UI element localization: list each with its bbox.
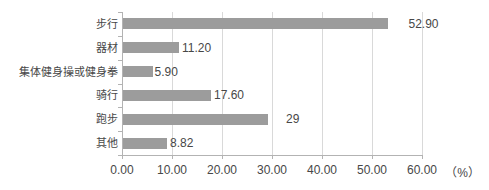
- x-tick-label: 10.00: [150, 163, 194, 177]
- category-tick-mark: [118, 60, 122, 61]
- x-tick-mark: [422, 156, 423, 159]
- x-tick-label: 50.00: [350, 163, 394, 177]
- x-tick-mark: [222, 156, 223, 159]
- category-tick-mark: [118, 155, 122, 156]
- plot-area: 52.9011.205.9017.60298.82: [122, 12, 423, 156]
- gridline: [172, 12, 173, 155]
- bar: [123, 18, 388, 29]
- x-tick-label: 30.00: [250, 163, 294, 177]
- x-tick-mark: [122, 156, 123, 159]
- category-tick-mark: [118, 107, 122, 108]
- category-label: 跑步: [96, 112, 118, 126]
- x-tick-mark: [322, 156, 323, 159]
- x-tick-label: 0.00: [100, 163, 144, 177]
- gridline: [272, 12, 273, 155]
- value-label: 11.20: [182, 41, 211, 55]
- value-label: 17.60: [214, 88, 244, 102]
- value-label: 8.82: [170, 136, 193, 150]
- category-tick-mark: [118, 12, 122, 13]
- x-tick-label: 60.00: [400, 163, 444, 177]
- bar: [123, 42, 179, 53]
- bar-chart: 52.9011.205.9017.60298.82 步行器材集体健身操或健身拳骑…: [0, 0, 489, 190]
- x-axis-unit-label: （%）: [440, 163, 485, 180]
- category-label: 步行: [96, 17, 118, 31]
- category-label: 集体健身操或健身拳: [19, 65, 118, 79]
- bar: [123, 66, 153, 77]
- gridline: [422, 12, 423, 155]
- value-label: 29: [286, 112, 299, 126]
- category-tick-mark: [118, 36, 122, 37]
- value-label: 5.90: [155, 65, 178, 79]
- category-label: 其他: [96, 136, 118, 150]
- x-tick-label: 20.00: [200, 163, 244, 177]
- x-tick-mark: [372, 156, 373, 159]
- bar: [123, 114, 268, 125]
- x-tick-mark: [172, 156, 173, 159]
- x-tick-mark: [272, 156, 273, 159]
- value-label: 52.90: [409, 17, 439, 31]
- x-tick-label: 40.00: [300, 163, 344, 177]
- category-label: 骑行: [96, 88, 118, 102]
- category-label: 器材: [96, 41, 118, 55]
- category-tick-mark: [118, 84, 122, 85]
- gridline: [222, 12, 223, 155]
- gridline: [322, 12, 323, 155]
- bar: [123, 138, 167, 149]
- bar: [123, 90, 211, 101]
- gridline: [372, 12, 373, 155]
- category-tick-mark: [118, 131, 122, 132]
